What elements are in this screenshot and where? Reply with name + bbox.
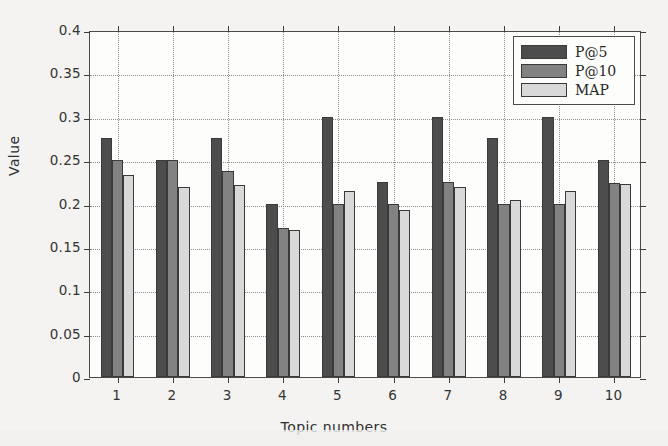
bar-p5-topic-4 — [266, 204, 277, 378]
y-tick-label: 0.35 — [1, 65, 81, 81]
y-tick-label: 0.3 — [1, 109, 81, 125]
legend-item: P@5 — [521, 42, 628, 61]
legend-swatch-map — [521, 83, 567, 97]
y-tick-label: 0.4 — [1, 22, 81, 38]
x-tick-label: 10 — [593, 387, 633, 403]
x-tick-top — [338, 26, 339, 32]
y-tick-right — [640, 292, 646, 293]
bar-p10-topic-8 — [498, 204, 509, 378]
legend-swatch-p10 — [521, 64, 567, 78]
y-tick-right — [640, 249, 646, 250]
x-tick-label: 7 — [428, 387, 468, 403]
bar-map-topic-3 — [234, 185, 245, 377]
bar-p5-topic-10 — [598, 160, 609, 377]
legend-item: P@10 — [521, 61, 628, 80]
x-tick-top — [394, 26, 395, 32]
bar-map-topic-5 — [344, 191, 355, 377]
y-tick-label: 0.25 — [1, 152, 81, 168]
y-tick-right — [640, 336, 646, 337]
x-tick-top — [449, 26, 450, 32]
y-tick-label: 0.15 — [1, 239, 81, 255]
bar-map-topic-9 — [565, 191, 576, 377]
y-tick-left — [84, 292, 90, 293]
scan-artifact — [0, 430, 668, 446]
y-tick-left — [84, 162, 90, 163]
x-tick-top — [283, 26, 284, 32]
x-tick-label: 2 — [152, 387, 192, 403]
legend-label-p10: P@10 — [575, 63, 616, 79]
y-tick-label: 0 — [1, 369, 81, 385]
x-tick-bottom — [504, 377, 505, 383]
bar-p10-topic-1 — [112, 160, 123, 377]
x-tick-bottom — [559, 377, 560, 383]
y-tick-left — [84, 379, 90, 380]
y-tick-right — [640, 32, 646, 33]
y-tick-label: 0.2 — [1, 196, 81, 212]
y-tick-left — [84, 32, 90, 33]
y-tick-right — [640, 75, 646, 76]
x-tick-label: 8 — [483, 387, 523, 403]
bar-p10-topic-4 — [278, 228, 289, 377]
x-tick-label: 4 — [262, 387, 302, 403]
x-tick-label: 9 — [538, 387, 578, 403]
y-tick-left — [84, 249, 90, 250]
bar-map-topic-10 — [620, 184, 631, 377]
x-tick-bottom — [228, 377, 229, 383]
x-tick-label: 6 — [373, 387, 413, 403]
x-tick-top — [173, 26, 174, 32]
x-tick-top — [228, 26, 229, 32]
x-tick-label: 3 — [207, 387, 247, 403]
bar-p5-topic-2 — [156, 160, 167, 377]
y-tick-left — [84, 336, 90, 337]
legend-item: MAP — [521, 80, 628, 99]
y-tick-left — [84, 119, 90, 120]
bar-p10-topic-7 — [443, 182, 454, 377]
bar-map-topic-6 — [399, 210, 410, 377]
x-tick-bottom — [173, 377, 174, 383]
x-tick-label: 1 — [97, 387, 137, 403]
x-tick-bottom — [394, 377, 395, 383]
bar-p10-topic-10 — [609, 183, 620, 377]
x-tick-top — [614, 26, 615, 32]
x-tick-bottom — [283, 377, 284, 383]
x-tick-top — [118, 26, 119, 32]
bar-map-topic-4 — [289, 230, 300, 377]
x-tick-label: 5 — [317, 387, 357, 403]
bar-p5-topic-5 — [322, 117, 333, 377]
bar-p10-topic-2 — [167, 160, 178, 377]
bar-p5-topic-9 — [542, 117, 553, 377]
y-tick-label: 0.05 — [1, 326, 81, 342]
bar-p5-topic-1 — [101, 138, 112, 377]
legend-label-p5: P@5 — [575, 44, 607, 60]
bar-p10-topic-5 — [333, 204, 344, 378]
bar-p5-topic-7 — [432, 117, 443, 377]
bar-p10-topic-9 — [554, 204, 565, 378]
x-tick-top — [504, 26, 505, 32]
x-tick-bottom — [614, 377, 615, 383]
x-tick-bottom — [338, 377, 339, 383]
bar-p10-topic-6 — [388, 204, 399, 378]
y-tick-left — [84, 75, 90, 76]
y-tick-right — [640, 119, 646, 120]
y-tick-label: 0.1 — [1, 282, 81, 298]
bar-map-topic-1 — [123, 175, 134, 377]
y-tick-left — [84, 206, 90, 207]
chart-legend: P@5 P@10 MAP — [513, 36, 635, 105]
bar-map-topic-7 — [454, 187, 465, 377]
legend-swatch-p5 — [521, 45, 567, 59]
x-tick-bottom — [118, 377, 119, 383]
legend-label-map: MAP — [575, 82, 609, 98]
x-tick-top — [559, 26, 560, 32]
bar-chart-figure: Value 00.050.10.150.20.250.30.350.4 1234… — [0, 0, 668, 446]
y-tick-right — [640, 206, 646, 207]
bar-p5-topic-8 — [487, 138, 498, 377]
y-tick-right — [640, 162, 646, 163]
bar-map-topic-2 — [178, 187, 189, 377]
bar-p5-topic-6 — [377, 182, 388, 377]
y-tick-right — [640, 379, 646, 380]
bar-p5-topic-3 — [211, 138, 222, 377]
x-tick-bottom — [449, 377, 450, 383]
bar-p10-topic-3 — [222, 171, 233, 377]
bar-map-topic-8 — [510, 200, 521, 377]
